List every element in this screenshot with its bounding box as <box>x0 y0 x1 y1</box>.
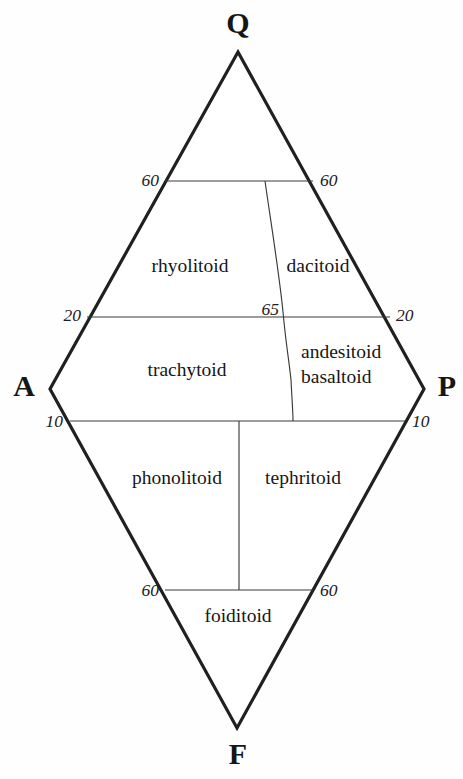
field-label-trachytoid: trachytoid <box>147 359 226 380</box>
tick-label-f60-left: 60 <box>142 580 160 600</box>
field-label-tephritoid: tephritoid <box>265 467 341 488</box>
tick-label-f60-right: 60 <box>320 580 338 600</box>
tick-label-q20-left: 20 <box>64 305 82 325</box>
tick-label-f10-right: 10 <box>412 411 430 431</box>
field-label-basaltoid: basaltoid <box>301 366 372 387</box>
vertex-label-f: F <box>229 737 247 770</box>
vertex-label-q: Q <box>226 6 249 39</box>
field-label-dacitoid: dacitoid <box>287 255 350 276</box>
tick-label-q60-right: 60 <box>320 170 338 190</box>
tick-label-f10-left: 10 <box>46 411 64 431</box>
vertex-label-a: A <box>13 369 35 402</box>
field-label-phonolitoid: phonolitoid <box>132 467 222 488</box>
qapf-diagram-canvas: Q A P F 60 60 20 20 10 10 60 60 65 rhyol… <box>0 0 463 779</box>
qapf-outline <box>50 52 424 728</box>
field-label-foiditoid: foiditoid <box>204 605 271 626</box>
tick-label-q20-right: 20 <box>396 305 414 325</box>
vertex-label-p: P <box>438 369 456 402</box>
tick-label-ap65: 65 <box>262 299 280 319</box>
tick-label-q60-left: 60 <box>142 170 160 190</box>
qapf-diagram-root: Q A P F 60 60 20 20 10 10 60 60 65 rhyol… <box>0 0 463 779</box>
field-label-andesitoid: andesitoid <box>301 341 381 362</box>
field-label-rhyolitoid: rhyolitoid <box>152 255 229 276</box>
